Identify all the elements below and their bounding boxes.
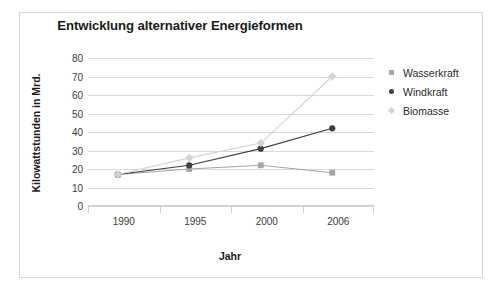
diamond-marker-icon — [385, 105, 397, 117]
x-axis-tick-label: 1990 — [113, 216, 135, 227]
series-wasserkraft — [115, 162, 335, 177]
data-series-layer — [88, 58, 374, 206]
x-axis-tick-label: 2006 — [327, 216, 349, 227]
legend-item-biomasse[interactable]: Biomasse — [385, 102, 480, 119]
y-axis-tick-label: 0 — [77, 201, 83, 212]
chart-legend: WasserkraftWindkraftBiomasse — [385, 64, 480, 121]
x-axis-tick-mark — [373, 206, 374, 213]
circle-marker-icon — [385, 86, 397, 98]
x-axis-tick-mark — [231, 206, 232, 213]
legend-item-windkraft[interactable]: Windkraft — [385, 83, 480, 100]
y-axis-title-text: Kilowattstunden in Mrd. — [30, 58, 42, 208]
x-axis-tick-mark — [303, 206, 304, 213]
square-marker-icon — [385, 67, 397, 79]
x-axis-tick-label: 2000 — [256, 216, 278, 227]
data-point-square-marker — [258, 162, 264, 168]
data-point-square-marker — [329, 170, 335, 176]
legend-label: Windkraft — [403, 86, 447, 98]
series-line — [118, 77, 333, 175]
legend-label: Wasserkraft — [403, 67, 459, 79]
x-axis-tick-mark — [160, 206, 161, 213]
y-axis-tick-label: 10 — [72, 182, 83, 193]
legend-label: Biomasse — [403, 105, 449, 117]
x-axis-tick-mark — [88, 206, 89, 213]
data-point-circle-marker — [186, 162, 192, 168]
chart-page: Entwicklung alternativer Energieformen K… — [0, 0, 502, 296]
y-axis-tick-label: 40 — [72, 127, 83, 138]
data-point-diamond-marker — [185, 154, 193, 162]
y-axis-title: Kilowattstunden in Mrd. — [30, 0, 44, 58]
y-axis-tick-label: 30 — [72, 145, 83, 156]
y-axis-tick-label: 50 — [72, 108, 83, 119]
x-axis-tick-label: 1995 — [184, 216, 206, 227]
x-axis-title: Jahr — [86, 250, 374, 262]
y-axis-tick-label: 70 — [72, 71, 83, 82]
y-axis-tick-label: 20 — [72, 164, 83, 175]
plot-area: 80706050403020100 — [88, 58, 374, 206]
y-axis-tick-label: 80 — [72, 53, 83, 64]
data-point-circle-marker — [329, 125, 335, 131]
x-axis: 1990199520002006 — [88, 206, 374, 240]
chart-title: Entwicklung alternativer Energieformen — [0, 18, 360, 33]
series-biomasse — [114, 72, 337, 178]
y-axis-tick-label: 60 — [72, 90, 83, 101]
legend-item-wasserkraft[interactable]: Wasserkraft — [385, 64, 480, 81]
